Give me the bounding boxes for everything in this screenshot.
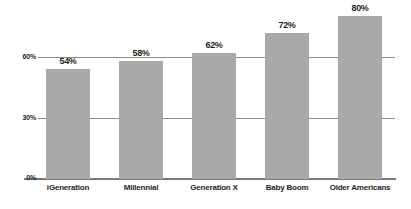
bar-generation-x[interactable]: 62% <box>192 53 236 179</box>
bar-group-generation-x[interactable]: 62% Generation X <box>192 53 236 179</box>
category-label-older-americans: Older Americans <box>330 183 391 192</box>
bar-value-older-americans: 80% <box>351 3 368 13</box>
category-label-millennial: Millennial <box>124 183 158 192</box>
bar-chart: 60% 30% 0% 54% iGeneration 58% Millennia… <box>0 0 411 209</box>
bar-group-older-americans[interactable]: 80% Older Americans <box>338 16 382 179</box>
bar-group-igeneration[interactable]: 54% iGeneration <box>46 69 90 179</box>
category-label-generation-x: Generation X <box>190 183 237 192</box>
category-label-baby-boom: Baby Boom <box>266 183 309 192</box>
bar-value-millennial: 58% <box>132 48 149 58</box>
category-label-igeneration: iGeneration <box>47 183 89 192</box>
bar-baby-boom[interactable]: 72% <box>265 33 309 179</box>
bars-layer: 54% iGeneration 58% Millennial 62% Gener… <box>0 0 411 209</box>
bar-value-igeneration: 54% <box>59 56 76 66</box>
bar-value-baby-boom: 72% <box>278 20 295 30</box>
bar-igeneration[interactable]: 54% <box>46 69 90 179</box>
bar-older-americans[interactable]: 80% <box>338 16 382 179</box>
bar-group-millennial[interactable]: 58% Millennial <box>119 61 163 179</box>
bar-value-generation-x: 62% <box>205 40 222 50</box>
bar-group-baby-boom[interactable]: 72% Baby Boom <box>265 33 309 179</box>
bar-millennial[interactable]: 58% <box>119 61 163 179</box>
